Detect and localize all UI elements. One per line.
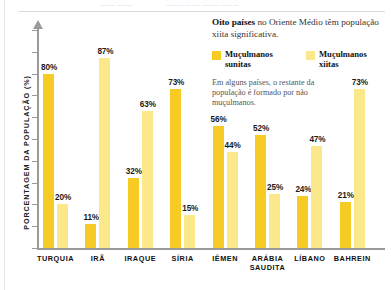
headline: Oito países no Oriente Médio têm populaç… [212, 16, 388, 40]
x-axis-label: TURQUIA [35, 254, 76, 263]
bar-sunni[interactable] [85, 224, 96, 248]
cropped-header-fragment-right: ........ ....... ........ ......... [167, 0, 239, 8]
legend-item-sunni[interactable]: Muçulmanos sunitas [212, 50, 292, 69]
annotation-note: Em alguns países, o restante da populaçã… [212, 78, 340, 108]
bar-value-label: 87% [97, 47, 113, 56]
y-axis-tick [32, 161, 37, 162]
legend-swatch-shia [306, 51, 315, 60]
bar-shia[interactable] [99, 58, 110, 248]
bar-value-label: 11% [83, 213, 99, 222]
x-axis-label: IÊMEN [205, 254, 246, 263]
y-axis-tick [32, 204, 37, 205]
legend-label-sunni: Muçulmanos sunitas [225, 50, 292, 69]
bar-shia[interactable] [184, 215, 195, 248]
bar-value-label: 47% [309, 135, 325, 144]
legend-swatch-sunni [212, 51, 221, 60]
bar-value-label: 32% [126, 167, 142, 176]
bar-value-label: 80% [41, 63, 57, 72]
x-axis-label: SÍRIA [162, 254, 203, 263]
y-axis-tick [32, 183, 37, 184]
y-axis-title: PORCENTAGEM DA POPULAÇÃO (%) [22, 55, 31, 251]
headline-bold: Oito países [212, 17, 255, 27]
x-axis-baseline [37, 248, 385, 250]
bar-shia[interactable] [227, 152, 238, 248]
y-axis-tick [32, 30, 37, 31]
bar-sunni[interactable] [128, 178, 139, 248]
y-axis-tick [32, 226, 37, 227]
top-divider [18, 11, 385, 12]
bar-sunni[interactable] [297, 196, 308, 248]
bar-group: 11%87% [85, 30, 110, 248]
cropped-header-fragment-left: ....... ........ [100, 0, 133, 8]
chart-page: ....... ................ ....... .......… [0, 0, 391, 290]
y-axis-tick [32, 139, 37, 140]
bar-sunni[interactable] [43, 74, 54, 248]
bar-shia[interactable] [311, 146, 322, 248]
x-axis-label: ARÁBIA SAUDITA [247, 254, 288, 272]
bar-sunni[interactable] [255, 135, 266, 248]
left-page-border [4, 0, 5, 290]
bar-sunni[interactable] [170, 89, 181, 248]
legend-label-shia: Muçulmanos xiitas [319, 50, 386, 69]
bar-shia[interactable] [142, 111, 153, 248]
annotation-block: Oito países no Oriente Médio têm populaç… [212, 16, 388, 108]
x-axis-label: BAHREIN [332, 254, 373, 263]
y-axis-tick [32, 95, 37, 96]
y-axis-arrow-icon [33, 20, 43, 29]
bar-value-label: 24% [295, 185, 311, 194]
legend-item-shia[interactable]: Muçulmanos xiitas [306, 50, 386, 69]
legend: Muçulmanos sunitasMuçulmanos xiitas [212, 50, 388, 69]
bar-shia[interactable] [354, 89, 365, 248]
y-axis-tick [32, 117, 37, 118]
cropped-header-text: ....... ................ ....... .......… [100, 0, 385, 8]
bar-value-label: 63% [140, 100, 156, 109]
y-axis-tick [32, 74, 37, 75]
bar-value-label: 73% [168, 78, 184, 87]
x-axis-label: IRÃ [77, 254, 118, 263]
x-axis-label: IRAQUE [120, 254, 161, 263]
bar-group: 80%20% [43, 30, 68, 248]
bar-value-label: 56% [211, 115, 227, 124]
bar-value-label: 20% [55, 193, 71, 202]
bar-value-label: 25% [267, 183, 283, 192]
bar-sunni[interactable] [340, 202, 351, 248]
bar-shia[interactable] [269, 194, 280, 249]
bar-value-label: 15% [182, 204, 198, 213]
bar-group: 32%63% [128, 30, 153, 248]
x-axis-label: LÍBANO [289, 254, 330, 263]
bar-value-label: 21% [338, 191, 354, 200]
bar-value-label: 44% [225, 141, 241, 150]
y-axis-tick [32, 52, 37, 53]
bar-shia[interactable] [57, 204, 68, 248]
bar-value-label: 52% [253, 124, 269, 133]
bar-sunni[interactable] [213, 126, 224, 248]
bar-group: 73%15% [170, 30, 195, 248]
